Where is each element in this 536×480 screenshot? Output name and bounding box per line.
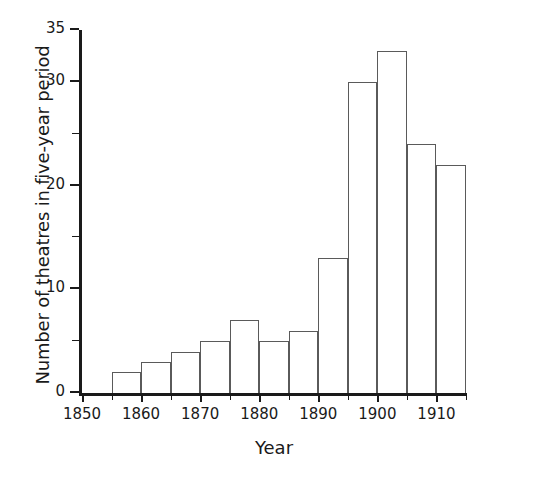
x-tick-minor — [466, 393, 467, 400]
x-tick-minor — [230, 393, 231, 400]
y-tick-minor — [72, 236, 79, 237]
y-tick-label: 20 — [46, 175, 65, 193]
y-tick-minor — [72, 340, 79, 341]
x-tick-1900 — [377, 393, 379, 402]
y-tick-0: 0 — [70, 391, 79, 393]
x-tick-label: 1880 — [240, 405, 278, 423]
y-tick-label: 35 — [46, 19, 65, 37]
x-axis-title: Year — [82, 437, 466, 458]
x-tick-label: 1860 — [122, 405, 160, 423]
y-tick-label: 0 — [55, 382, 65, 400]
x-tick-1870 — [200, 393, 202, 402]
bar-1865-1870 — [171, 352, 201, 393]
x-tick-label: 1910 — [417, 405, 455, 423]
bar-1885-1890 — [289, 331, 319, 393]
x-tick-minor — [171, 393, 172, 400]
x-tick-minor — [289, 393, 290, 400]
bar-1880-1885 — [259, 341, 289, 393]
x-tick-1860 — [141, 393, 143, 402]
y-tick-20: 20 — [70, 184, 79, 186]
x-tick-minor — [407, 393, 408, 400]
x-tick-1850 — [82, 393, 84, 402]
x-tick-1880 — [259, 393, 261, 402]
x-tick-minor — [112, 393, 113, 400]
bar-1870-1875 — [200, 341, 230, 393]
x-tick-label: 1870 — [181, 405, 219, 423]
bar-1900-1905 — [377, 51, 407, 393]
bar-1860-1865 — [141, 362, 171, 393]
y-tick-10: 10 — [70, 287, 79, 289]
bar-1875-1880 — [230, 320, 260, 393]
plot-area: 010203035 1850186018701880189019001910 — [82, 30, 466, 393]
bar-1905-1910 — [407, 144, 437, 393]
x-tick-1910 — [436, 393, 438, 402]
y-tick-35: 35 — [70, 28, 79, 30]
y-tick-label: 30 — [46, 71, 65, 89]
chart-figure: Number of theatres in five-year period 0… — [0, 0, 536, 480]
bar-1895-1900 — [348, 82, 378, 393]
x-tick-label: 1900 — [358, 405, 396, 423]
x-axis-spine — [79, 393, 466, 396]
bar-1910-1915 — [436, 165, 466, 393]
bar-1890-1895 — [318, 258, 348, 393]
y-tick-minor — [72, 133, 79, 134]
x-tick-label: 1850 — [63, 405, 101, 423]
y-tick-30: 30 — [70, 80, 79, 82]
y-tick-label: 10 — [46, 278, 65, 296]
x-tick-1890 — [318, 393, 320, 402]
y-axis-spine — [79, 30, 82, 394]
x-tick-label: 1890 — [299, 405, 337, 423]
x-tick-minor — [348, 393, 349, 400]
bar-1855-1860 — [112, 372, 142, 393]
